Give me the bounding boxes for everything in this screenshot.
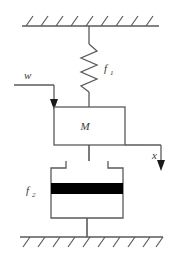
mechanical-system-diagram: f 1 w M x [0, 0, 184, 260]
displacement-arrow [125, 145, 165, 171]
dashpot-piston [51, 183, 123, 194]
spring-element [81, 26, 97, 107]
output-label: x [151, 149, 157, 161]
spring-label-subscript: 1 [110, 69, 114, 77]
diagram-canvas: f 1 w M x [0, 0, 184, 260]
fixed-support-bottom [20, 237, 163, 247]
damper-label-subscript: 2 [32, 191, 36, 199]
mass-block-label: M [79, 120, 90, 132]
spring-label: f 1 [104, 62, 114, 77]
fixed-support-top [22, 16, 159, 26]
dashpot-element [51, 161, 123, 218]
damper-label: f 2 [26, 184, 36, 199]
input-label: w [24, 69, 32, 81]
spring-coils [81, 44, 97, 92]
ceiling-hatching [26, 16, 153, 26]
damper-label-symbol: f [26, 184, 31, 196]
input-force-arrow [14, 85, 58, 110]
output-arrow-head [157, 160, 165, 171]
floor-hatching [23, 237, 163, 247]
spring-label-symbol: f [104, 62, 109, 74]
mass-block: M [54, 107, 125, 145]
